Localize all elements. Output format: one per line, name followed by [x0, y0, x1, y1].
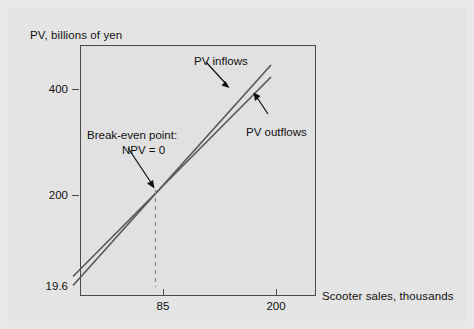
annotation-pv-outflows: PV outflows [246, 125, 307, 139]
y-axis-title: PV, billions of yen [30, 29, 122, 41]
x-tick-mark-200 [276, 289, 277, 296]
x-tick-label-200: 200 [252, 300, 300, 312]
y-tick-label-400: 400 [22, 83, 68, 95]
plot-area [80, 45, 316, 296]
figure-container: PV, billions of yen Scooter sales, thous… [0, 0, 474, 329]
annotation-breakeven-line2: NPV = 0 [87, 143, 200, 157]
y-tick-mark-200 [72, 195, 79, 196]
x-axis-title: Scooter sales, thousands [322, 290, 454, 302]
y-tick-label-19-6: 19.6 [14, 280, 68, 292]
annotation-pv-inflows: PV inflows [194, 54, 248, 68]
y-tick-mark-400 [72, 89, 79, 90]
annotation-breakeven-line1: Break-even point: [87, 128, 177, 142]
y-tick-label-200: 200 [22, 189, 68, 201]
figure-inner-panel: PV, billions of yen Scooter sales, thous… [8, 8, 466, 321]
x-tick-mark-85 [163, 289, 164, 296]
x-tick-label-85: 85 [139, 300, 187, 312]
